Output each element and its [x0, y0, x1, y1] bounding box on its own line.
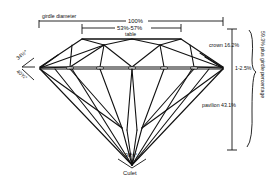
pavilion-angle-label: 40¾° — [15, 68, 28, 80]
pavilion-facet-line — [55, 69, 132, 165]
pavilion-depth-label: pavilion 43.1% — [202, 102, 236, 108]
crown-height-label: crown 16.2% — [209, 42, 239, 48]
crown-facet-line — [160, 39, 181, 45]
crown-facet-line — [70, 45, 72, 67]
crown-facet-line — [104, 39, 132, 45]
pavilion-facet-line — [72, 69, 132, 165]
girdle-thickness-label: 1-2.5% — [235, 65, 252, 71]
crown-facet-line — [82, 39, 104, 45]
total-width-label: 100% — [128, 18, 143, 24]
girdle-diameter-label: girdle diameter — [42, 13, 77, 19]
pavilion-facet-line — [40, 69, 122, 128]
pavilion-facet-line — [127, 69, 132, 130]
pavilion-facet-line — [132, 69, 209, 165]
pavilion-facet-line — [132, 69, 192, 165]
pavilion-facet-line — [132, 69, 137, 130]
pavilion-outline — [40, 69, 223, 165]
crown-facets — [40, 39, 223, 68]
culet-angle-label: 98½° — [125, 152, 137, 158]
crown-angle-label: 34½° — [15, 49, 28, 61]
crown-facet-line — [160, 45, 164, 67]
crown-facet-line — [160, 45, 223, 68]
table-dimension: 53%-57% table — [82, 24, 181, 37]
diagram-canvas: girdle diameter 100% 53%-57% table — [0, 0, 275, 189]
table-label: table — [125, 31, 136, 37]
total-depth-label: 59.3% plus girdle percentage — [260, 31, 266, 98]
crown-outline — [40, 39, 223, 67]
pavilion-angle-marker: 40¾° — [15, 68, 34, 80]
depth-dimensions: crown 16.2% 1-2.5% pavilion 43.1% 59.3% … — [202, 29, 266, 150]
total-depth-brace — [247, 30, 256, 147]
crown-facet-line — [100, 45, 104, 67]
diamond-proportions-diagram: girdle diameter 100% 53%-57% table — [0, 0, 275, 189]
crown-angle-arm — [22, 58, 34, 67]
pavilion-facets — [40, 69, 223, 165]
crown-facet-line — [132, 45, 160, 67]
crown-angle-marker: 34½° — [15, 49, 35, 67]
crown-facet-line — [70, 45, 104, 67]
crown-facet-line — [132, 39, 160, 45]
culet-label: Culet — [123, 170, 137, 176]
pavilion-facet-line — [142, 69, 223, 128]
crown-facet-line — [104, 45, 132, 67]
crown-facet-line — [40, 55, 58, 68]
